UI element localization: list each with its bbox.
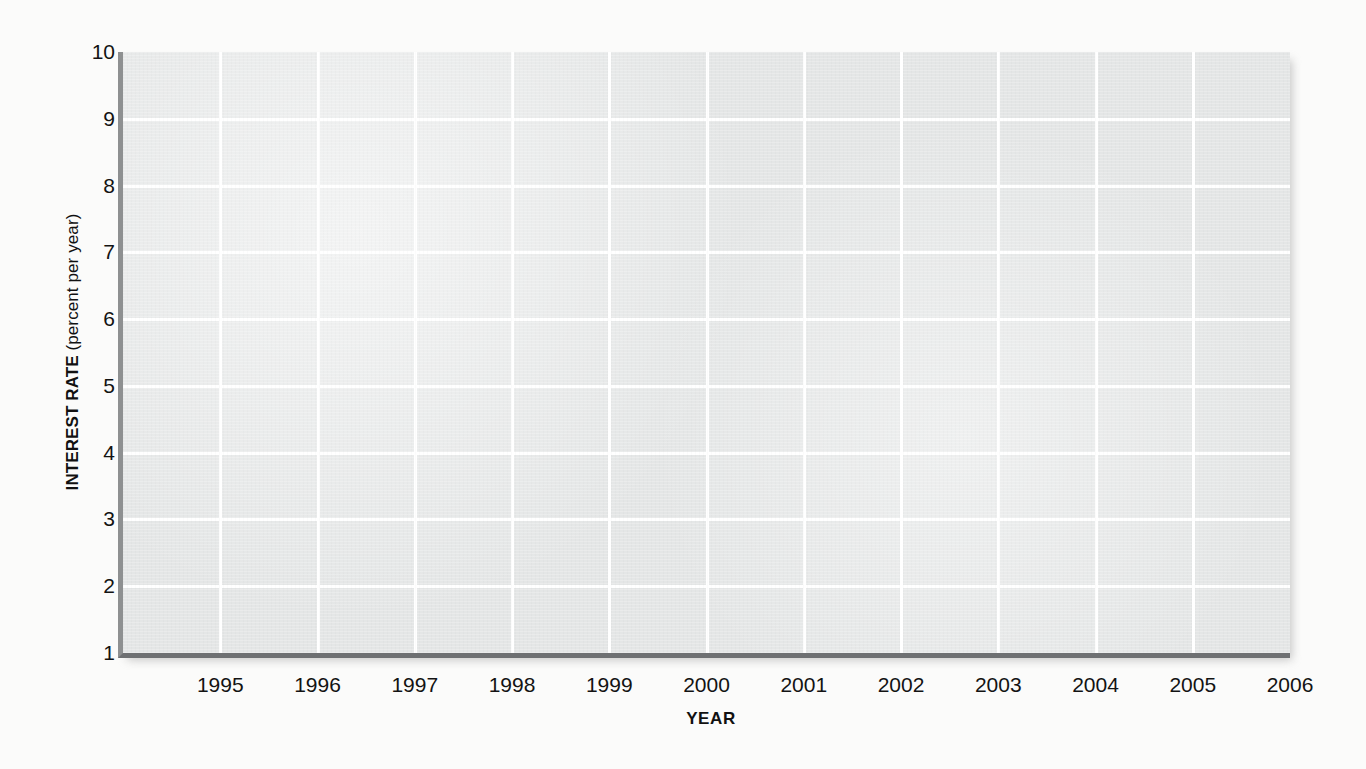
x-tick-label: 1999 [586,673,633,697]
x-axis-title: YEAR [0,709,1366,729]
y-axis-title: INTEREST RATE (percent per year) [56,44,90,660]
x-tick-label: 2005 [1169,673,1216,697]
y-tick-label: 1 [103,641,115,665]
y-tick-label: 5 [103,374,115,398]
x-axis-tick-labels: 1995199619971998199920002001200220032004… [0,673,1366,707]
y-tick-label: 3 [103,507,115,531]
y-tick-label: 2 [103,574,115,598]
y-axis-title-bold: INTEREST RATE [63,355,82,490]
y-tick-label: 8 [103,174,115,198]
x-tick-label: 2000 [683,673,730,697]
x-tick-label: 1995 [197,673,244,697]
x-tick-label: 1997 [391,673,438,697]
y-tick-label: 9 [103,107,115,131]
x-tick-label: 2006 [1267,673,1314,697]
interest-rate-blank-grid-chart: INTEREST RATE (percent per year) 1098765… [0,0,1366,769]
x-tick-label: 2002 [878,673,925,697]
y-tick-label: 7 [103,240,115,264]
x-tick-label: 1996 [294,673,341,697]
plot-axes-frame [118,52,1290,658]
x-tick-label: 2001 [780,673,827,697]
x-axis-title-text: YEAR [686,709,736,729]
x-tick-label: 2003 [975,673,1022,697]
y-tick-label: 4 [103,441,115,465]
y-tick-label: 6 [103,307,115,331]
x-tick-label: 1998 [489,673,536,697]
y-tick-label: 10 [92,40,115,64]
x-tick-label: 2004 [1072,673,1119,697]
y-axis-title-unit: (percent per year) [63,214,82,356]
